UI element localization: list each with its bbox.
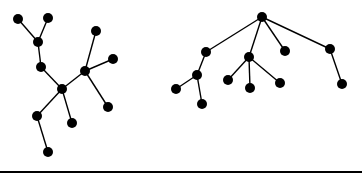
tree-node <box>67 118 77 128</box>
tree-edge <box>206 17 262 52</box>
tree-node <box>43 13 53 23</box>
tree-node <box>57 84 67 94</box>
tree-edge <box>37 89 62 116</box>
left-tree-edges <box>18 18 113 152</box>
tree-node <box>223 75 233 85</box>
tree-node <box>257 12 267 22</box>
tree-node <box>197 99 207 109</box>
tree-node <box>32 111 42 121</box>
right-tree-edges <box>176 17 342 104</box>
tree-node <box>192 70 202 80</box>
tree-edge <box>85 31 96 71</box>
tree-node <box>280 46 290 56</box>
tree-edge <box>330 49 342 84</box>
tree-node <box>325 44 335 54</box>
tree-node <box>103 102 113 112</box>
tree-diagram <box>0 0 362 175</box>
tree-edge <box>85 71 108 107</box>
tree-edge <box>249 17 262 57</box>
tree-node <box>275 78 285 88</box>
tree-node <box>108 54 118 64</box>
tree-node <box>13 14 23 24</box>
tree-node <box>201 47 211 57</box>
tree-node <box>244 52 254 62</box>
tree-node <box>245 83 255 93</box>
tree-node <box>337 79 347 89</box>
tree-edge <box>37 116 48 152</box>
tree-node <box>80 66 90 76</box>
edges-layer <box>18 17 342 152</box>
tree-edge <box>62 89 72 123</box>
left-tree-nodes <box>13 13 118 157</box>
tree-edge <box>249 57 280 83</box>
tree-node <box>36 62 46 72</box>
tree-node <box>91 26 101 36</box>
tree-node <box>33 37 43 47</box>
tree-node <box>43 147 53 157</box>
tree-node <box>171 84 181 94</box>
